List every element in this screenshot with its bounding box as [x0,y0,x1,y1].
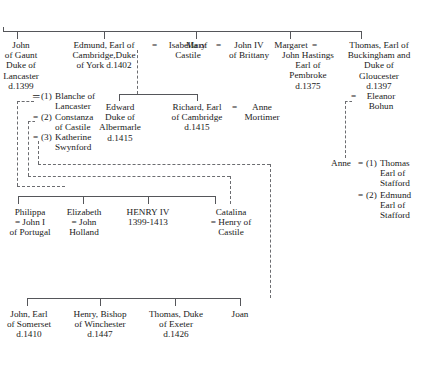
marriage-symbol-anne-2: = [358,190,363,200]
node-john-earl-of-somerset: John, Earl of Somerset d.1410 [0,309,58,340]
descent-line-katherine [38,141,39,164]
family-tree-diagram: John of Gaunt Duke of Lancaster d.1399 E… [0,0,422,376]
node-richard-earl-of-cambridge: Richard, Earl of Cambridge d.1415 [163,102,231,133]
stem-philippa [18,196,19,204]
stem-joan [240,298,241,306]
node-eleanor-bohun: Eleanor Bohun [358,91,404,111]
node-edmund-earl-of-stafford: Edmund Earl of Stafford [380,190,422,221]
marriage-symbol-gaunt-1: ═ [33,91,40,101]
node-henry-iv: HENRY IV [117,207,179,217]
node-john-hastings: John Hastings Earl of Pembroke d.1375 [276,50,340,91]
marriage-lead-blanche [17,101,34,102]
stem-edward-albermarle [119,94,120,101]
node-thomas-earl-of-stafford: Thomas Earl of Stafford [380,158,422,189]
sibling-bar-york-children [119,94,197,95]
marriage-number-3: (3) [41,132,53,142]
stem-edmund-york [104,31,105,39]
marriage-symbol-thomas: = [351,91,356,101]
node-philippa: Philippa = John I of Portugal [0,207,60,238]
node-edmund-earl-of-cambridge: Edmund, Earl of Cambridge,Duke of York d… [54,40,154,71]
stem-mary [196,31,197,39]
node-henry-bishop-of-winchester: Henry, Bishop of Winchester d.1447 [62,309,138,340]
stem-henry-iv [148,196,149,204]
sibling-bar-right-cap [361,31,362,39]
marriage-number-1: (1) [41,91,53,101]
marriage-lead-eleanor [345,101,352,102]
descent-line-blanche [17,101,18,186]
marriage-symbol-richard: = [232,102,237,112]
node-john-iv-of-brittany: John IV of Brittany [223,40,275,60]
sibling-bar-generation3 [18,196,215,197]
descent-line-gloucester [345,101,346,158]
marriage-lead-constanza [28,121,35,122]
stem-henry-winchester [100,298,101,306]
node-edward-duke-of-albermarle: Edward Duke of Albermarle d.1415 [98,102,142,143]
marriage-symbol-mary: = [216,40,221,50]
sibling-bar-generation3-right-cap [215,196,216,204]
stem-john-of-gaunt [17,31,18,39]
node-margaret: Margaret [270,40,312,50]
descent-bar-blanche [17,186,65,187]
node-elizabeth: Elizabeth = John Holland [56,207,112,238]
node-anne: Anne [325,158,357,168]
sibling-bar-generation1 [3,31,361,32]
descent-stem-beauforts [270,164,271,298]
stem-thomas-exeter [175,298,176,306]
descent-line-edmund-york [137,50,138,94]
marriage-symbol-anne-1: = [358,158,363,168]
sibling-bar-generation4 [27,298,240,299]
node-thomas-earl-of-buckingham: Thomas, Earl of Buckingham and Duke of G… [336,40,422,91]
node-anne-mortimer: Anne Mortimer [239,102,285,122]
node-mary: Mary [178,40,214,50]
marriage-number-anne-2: (2) [366,190,378,200]
descent-bar-katherine [38,164,270,165]
stem-margaret [290,31,291,39]
node-thomas-duke-of-exeter: Thomas, Duke of Exeter d.1426 [140,309,212,340]
descent-stem-catalina [230,176,231,204]
stem-john-somerset [27,298,28,306]
descent-bar-constanza [28,176,230,177]
descent-line-constanza [28,121,29,176]
node-henry-iv-reign-dates: 1399-1413 [117,217,179,227]
marriage-symbol-edmund: = [152,40,157,50]
sibling-bar-left-cap [3,27,4,32]
marriage-symbol-margaret: = [312,40,317,50]
node-john-of-gaunt: John of Gaunt Duke of Lancaster d.1399 [0,40,42,91]
stem-richard-cambridge [197,94,198,101]
marriage-number-2: (2) [41,112,53,122]
node-catalina: Catalina = Henry of Castile [200,207,262,238]
stem-elizabeth [83,196,84,204]
marriage-number-anne-1: (1) [366,158,378,168]
node-joan: Joan [222,309,258,319]
